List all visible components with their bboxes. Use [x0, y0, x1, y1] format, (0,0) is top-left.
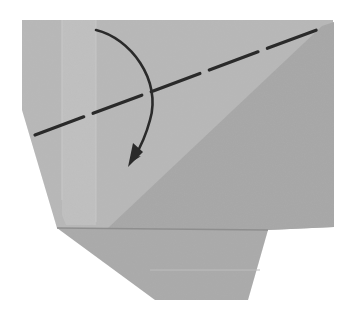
lower-flap — [57, 228, 268, 300]
origami-diagram — [0, 0, 339, 327]
diagram-canvas — [0, 0, 339, 327]
